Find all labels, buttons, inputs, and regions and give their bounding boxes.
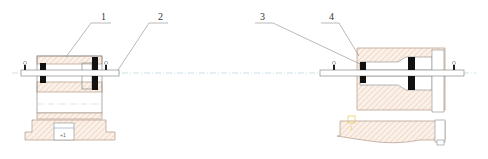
- left-base-mark: +1: [60, 132, 66, 138]
- leader-3: [255, 23, 360, 64]
- right-lower-foot: [437, 140, 444, 145]
- right-end-plate: [432, 50, 444, 112]
- callout-label-2: 2: [158, 12, 163, 22]
- right-base-mark: 1: [350, 125, 353, 131]
- callout-label-1: 1: [101, 12, 106, 22]
- left-bolt-icon-1: [23, 61, 26, 70]
- leader-4: [321, 23, 359, 56]
- assembly-drawing: +1 1: [0, 0, 488, 159]
- right-lower-bracket: [435, 120, 445, 142]
- right-seal-upper-1: [360, 62, 366, 70]
- left-seal-upper-1: [40, 63, 46, 70]
- right-seal-upper-2: [408, 57, 415, 70]
- leader-1: [66, 23, 111, 57]
- right-rod: [320, 70, 464, 76]
- left-assembly: +1: [21, 56, 119, 140]
- leader-lines: [66, 23, 360, 70]
- left-seal-upper-2: [92, 57, 98, 70]
- left-seal-lower-1: [40, 76, 46, 83]
- right-base: [337, 121, 445, 143]
- left-lower-ring: [37, 113, 102, 119]
- callout-label-4: 4: [329, 12, 334, 22]
- callout-label-3: 3: [260, 12, 265, 22]
- right-seal-lower-2: [408, 76, 415, 90]
- right-bolt-icon-2: [452, 61, 455, 70]
- left-seal-lower-2: [92, 76, 98, 90]
- right-seal-lower-1: [360, 76, 366, 83]
- right-assembly: 1: [320, 48, 464, 145]
- right-bolt-icon-1: [332, 61, 335, 70]
- left-bolt-icon-2: [104, 61, 107, 70]
- left-rod: [21, 70, 119, 76]
- leader-2: [118, 23, 168, 70]
